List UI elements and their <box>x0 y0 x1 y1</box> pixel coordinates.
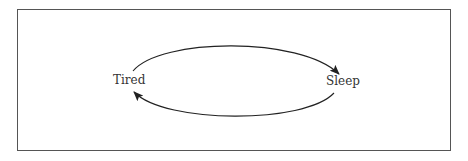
node-tired: Tired <box>113 73 145 87</box>
arrow-sleep-to-tired <box>134 92 334 116</box>
cycle-arrows <box>0 0 468 161</box>
node-sleep: Sleep <box>326 74 360 88</box>
arrow-tired-to-sleep <box>133 46 339 74</box>
